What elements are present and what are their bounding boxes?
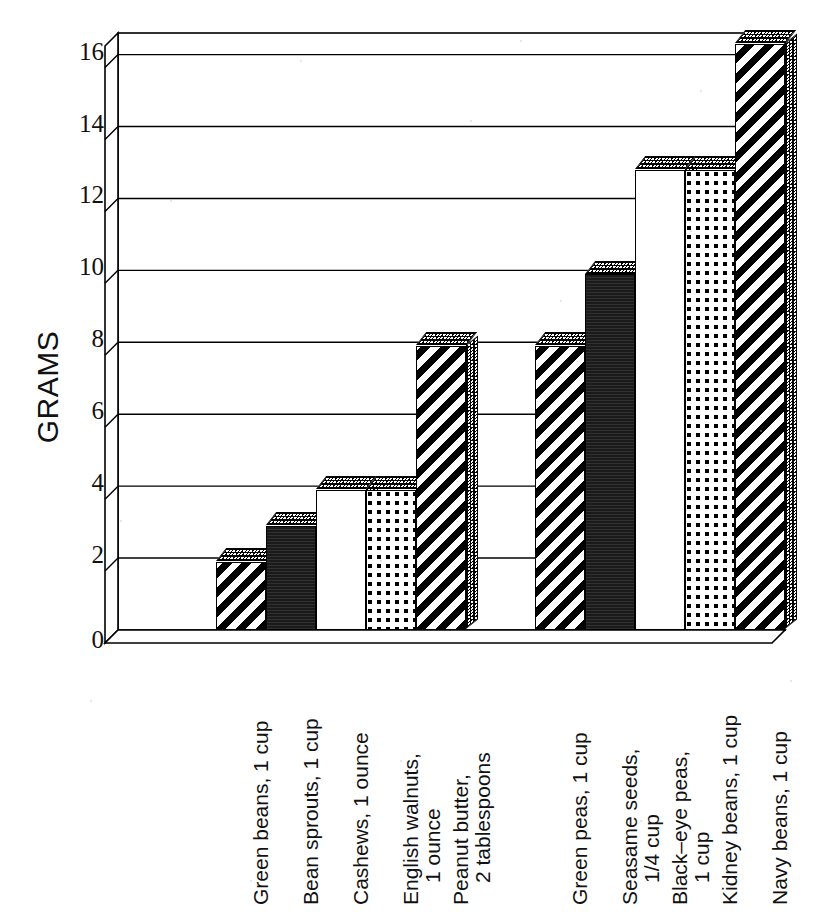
x-axis-tick-label-line1: Navy beans, 1 cup bbox=[768, 731, 791, 905]
scan-speck bbox=[520, 40, 522, 42]
bar bbox=[685, 170, 735, 630]
x-axis-tick-label-line2: 1 cup bbox=[691, 751, 713, 905]
scan-speck bbox=[640, 820, 642, 822]
scan-speck bbox=[120, 520, 122, 522]
bar bbox=[535, 346, 585, 630]
bar-side-face bbox=[785, 34, 797, 629]
scan-speck bbox=[90, 700, 92, 702]
x-axis-tick-label: Peanut butter,2 tablespoons bbox=[450, 752, 494, 905]
x-axis-tick-label: Cashews, 1 ounce bbox=[350, 732, 372, 905]
bar bbox=[216, 562, 266, 630]
x-axis-tick-label-line1: English walnuts, bbox=[399, 753, 422, 905]
bar bbox=[585, 274, 635, 630]
x-axis-tick-label-line2: 1/4 cup bbox=[641, 749, 663, 905]
scan-speck bbox=[470, 120, 472, 122]
bar bbox=[635, 170, 685, 630]
x-axis-tick-label: English walnuts,1 ounce bbox=[400, 753, 444, 905]
x-axis-tick-label: Green beans, 1 cup bbox=[250, 721, 272, 905]
scan-speck bbox=[170, 200, 172, 202]
bar-top-face bbox=[416, 332, 477, 345]
x-axis-tick-label: Kidney beans, 1 cup bbox=[719, 715, 741, 905]
bar bbox=[266, 526, 316, 630]
scan-speck bbox=[760, 430, 762, 432]
bar-chart-figure: GRAMS 0246810121416 Green beans, 1 cupBe… bbox=[0, 0, 822, 923]
x-axis-tick-label-line1: Kidney beans, 1 cup bbox=[718, 715, 741, 905]
x-axis-tick-label-line1: Green peas, 1 cup bbox=[568, 732, 591, 905]
scan-speck bbox=[300, 60, 302, 62]
x-axis-tick-label: Bean sprouts, 1 cup bbox=[300, 718, 322, 905]
bar bbox=[366, 490, 416, 630]
scan-speck bbox=[250, 880, 252, 882]
x-axis-tick-label: Seasame seeds,1/4 cup bbox=[619, 749, 663, 905]
x-axis-tick-label: Navy beans, 1 cup bbox=[769, 731, 791, 905]
scan-speck bbox=[790, 680, 792, 682]
x-axis-tick-label-line2: 1 ounce bbox=[422, 753, 444, 905]
x-axis-tick-label-line1: Green beans, 1 cup bbox=[249, 721, 272, 905]
x-axis-tick-label: Green peas, 1 cup bbox=[569, 732, 591, 905]
x-axis-tick-label: Black–eye peas,1 cup bbox=[669, 751, 713, 905]
x-axis-tick-label-line1: Black–eye peas, bbox=[668, 751, 691, 905]
x-axis-tick-label-line2: 2 tablespoons bbox=[472, 752, 494, 905]
x-axis-tick-label-line1: Peanut butter, bbox=[449, 774, 472, 905]
bar-side-face bbox=[466, 336, 478, 629]
x-axis-tick-label-line1: Bean sprouts, 1 cup bbox=[299, 718, 322, 905]
bar bbox=[416, 346, 466, 630]
x-axis-tick-label-line1: Cashews, 1 ounce bbox=[349, 732, 372, 905]
bar bbox=[735, 44, 785, 630]
scan-speck bbox=[700, 90, 702, 92]
bar-top-face bbox=[735, 30, 796, 43]
scan-speck bbox=[690, 230, 692, 232]
scan-speck bbox=[380, 560, 382, 562]
bar bbox=[316, 490, 366, 630]
scan-speck bbox=[400, 760, 402, 762]
scan-speck bbox=[560, 300, 562, 302]
x-axis-tick-label-line1: Seasame seeds, bbox=[618, 749, 641, 905]
